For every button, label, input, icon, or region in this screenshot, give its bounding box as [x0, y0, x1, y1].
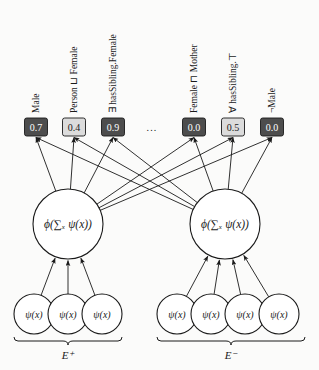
output-box-value: 0.0 — [188, 122, 201, 133]
input-node-label: ψ(x) — [25, 309, 43, 321]
input-node-label: ψ(x) — [93, 309, 111, 321]
input-node-group: ψ(x)ψ(x)ψ(x)ψ(x)ψ(x)ψ(x)ψ(x) — [14, 294, 299, 334]
aggregation-node-label: ϕ(∑ₓ ψ(x)) — [201, 218, 249, 231]
output-box-value: 0.7 — [30, 122, 43, 133]
group-brace-set: E⁺E⁻ — [14, 337, 305, 361]
network-diagram: 0.7Male0.4Person ⊔ Female0.9∃ hasSibling… — [0, 0, 319, 370]
edge-aggregation-to-output — [113, 138, 197, 203]
edge-input-to-aggregation — [214, 260, 219, 294]
edge-aggregation-to-output — [228, 138, 233, 190]
group-label: E⁺ — [61, 349, 76, 361]
edge-input-to-aggregation — [41, 258, 55, 295]
output-box: 0.0Female ⊓ Mother — [183, 43, 206, 136]
aggregation-node-group: ϕ(∑ₓ ψ(x))ϕ(∑ₓ ψ(x)) — [33, 189, 260, 259]
aggregation-node-label: ϕ(∑ₓ ψ(x)) — [44, 218, 92, 231]
figure-canvas: 0.7Male0.4Person ⊔ Female0.9∃ hasSibling… — [0, 0, 319, 370]
input-node-label: ψ(x) — [59, 309, 77, 321]
output-box: 0.7Male — [25, 93, 48, 136]
group-brace — [157, 337, 305, 345]
output-box-value: 0.4 — [68, 122, 81, 133]
input-node: ψ(x) — [82, 294, 122, 334]
input-node-label: ψ(x) — [202, 309, 220, 321]
edge-aggregation-to-output — [194, 138, 213, 192]
ellipsis-label: ... — [146, 122, 157, 133]
output-box-value: 0.5 — [227, 122, 240, 133]
group-brace — [14, 337, 122, 345]
output-box-label: ∀ hasSibling.⊤ — [228, 52, 238, 113]
input-node-label: ψ(x) — [270, 309, 288, 321]
input-node: ψ(x) — [259, 294, 299, 334]
edge-input-to-aggregation — [81, 258, 95, 295]
aggregation-node: ϕ(∑ₓ ψ(x)) — [33, 189, 103, 259]
edges-input-to-aggregation — [41, 255, 269, 297]
group-label: E⁻ — [224, 349, 239, 361]
edge-input-to-aggregation — [244, 255, 269, 297]
output-box-group: 0.7Male0.4Person ⊔ Female0.9∃ hasSibling… — [25, 34, 284, 136]
output-box: 0.9∃ hasSibling.Female — [102, 34, 125, 136]
output-box: 0.5∀ hasSibling.⊤ — [222, 52, 245, 136]
output-box: 0.4Person ⊔ Female — [63, 46, 86, 136]
output-box-label: Person ⊔ Female — [69, 46, 79, 113]
output-box: 0.0¬Male — [261, 88, 284, 136]
input-node-label: ψ(x) — [168, 309, 186, 321]
output-box-label: Female ⊓ Mother — [189, 43, 199, 113]
output-box-value: 0.0 — [266, 122, 279, 133]
input-node-label: ψ(x) — [236, 309, 254, 321]
edge-aggregation-to-output — [242, 138, 272, 194]
edge-aggregation-to-output — [70, 138, 74, 190]
output-box-label: ¬Male — [267, 88, 277, 113]
output-box-value: 0.9 — [107, 122, 120, 133]
edge-input-to-aggregation — [186, 256, 207, 296]
aggregation-node: ϕ(∑ₓ ψ(x)) — [190, 189, 260, 259]
output-box-label: ∃ hasSibling.Female — [108, 34, 118, 113]
output-box-label: Male — [31, 93, 41, 113]
edge-aggregation-to-output — [97, 138, 194, 205]
edge-input-to-aggregation — [233, 260, 241, 295]
